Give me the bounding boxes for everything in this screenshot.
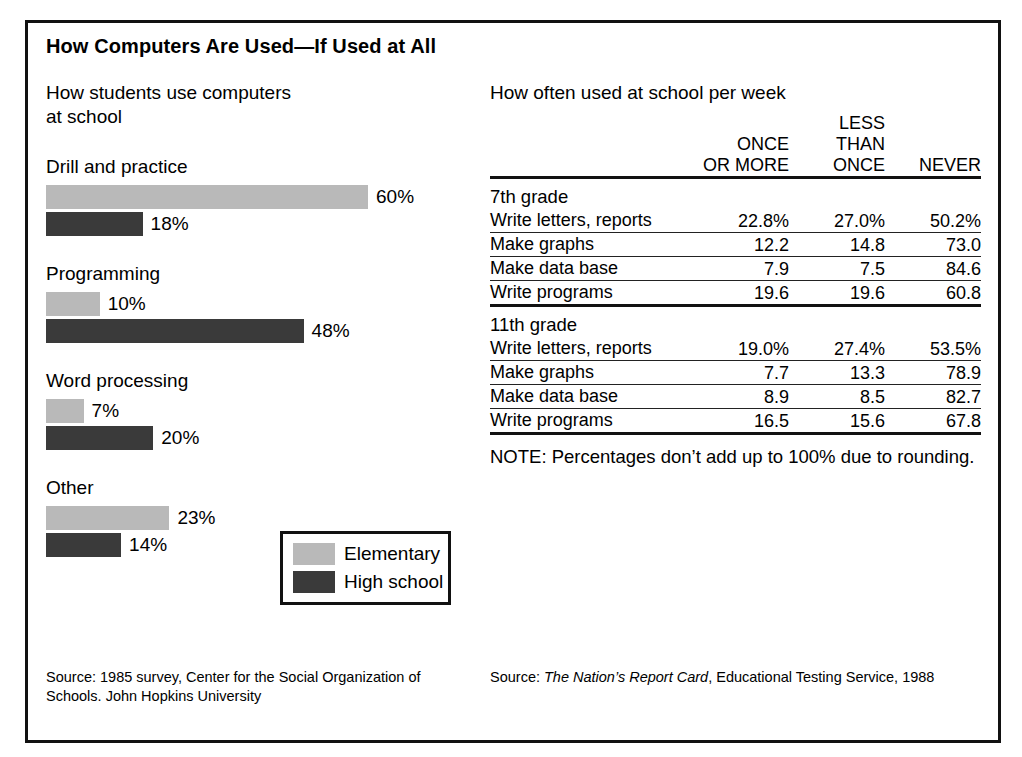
column-header: NEVER (885, 113, 981, 178)
bar-value-label: 48% (312, 320, 350, 342)
source-right-suffix: , Educational Testing Service, 1988 (708, 669, 934, 685)
table-cell-value: 7.5 (789, 257, 885, 281)
bar-elementary (46, 506, 169, 530)
table-cell-value: 8.5 (789, 385, 885, 409)
table-cell-value: 82.7 (885, 385, 981, 409)
bar-chart-heading: How students use computers at school (46, 81, 478, 129)
table-row: Write letters, reports22.8%27.0%50.2% (490, 208, 981, 233)
table-cell-value: 19.6 (693, 281, 789, 306)
legend-swatch-elementary-icon (293, 543, 335, 565)
legend-swatch-high-school-icon (293, 571, 335, 593)
bar-row: 20% (46, 426, 478, 450)
bar-group: Programming10%48% (46, 262, 478, 343)
bar-high-school (46, 212, 143, 236)
bar-row: 23% (46, 506, 478, 530)
table-cell-value: 12.2 (693, 233, 789, 257)
bar-high-school (46, 426, 153, 450)
bar-elementary (46, 292, 100, 316)
table-row: Make data base7.97.584.6 (490, 257, 981, 281)
bar-value-label: 60% (376, 186, 414, 208)
bar-group-label: Drill and practice (46, 155, 478, 179)
table-group-label: 11th grade (490, 306, 981, 337)
table-row-label: Write letters, reports (490, 208, 693, 233)
table-group-row: 11th grade (490, 306, 981, 337)
column-header-blank (490, 113, 693, 178)
table-cell-value: 27.0% (789, 208, 885, 233)
table-cell-value: 78.9 (885, 361, 981, 385)
bar-row: 48% (46, 319, 478, 343)
table-cell-value: 73.0 (885, 233, 981, 257)
frequency-table-heading: How often used at school per week (490, 81, 985, 105)
table-note: NOTE: Percentages don’t add up to 100% d… (490, 445, 985, 469)
table-row: Make graphs12.214.873.0 (490, 233, 981, 257)
bar-row: 7% (46, 399, 478, 423)
table-cell-value: 84.6 (885, 257, 981, 281)
table-cell-value: 7.7 (693, 361, 789, 385)
table-cell-value: 13.3 (789, 361, 885, 385)
bar-value-label: 7% (92, 400, 119, 422)
table-cell-value: 8.9 (693, 385, 789, 409)
table-row-label: Write programs (490, 281, 693, 306)
bar-groups: Drill and practice60%18%Programming10%48… (46, 155, 478, 557)
table-row: Write programs19.619.660.8 (490, 281, 981, 306)
table-row-label: Make graphs (490, 361, 693, 385)
legend-label-elementary: Elementary (344, 543, 440, 565)
bar-chart-panel: How students use computers at school Dri… (46, 81, 478, 557)
bar-row: 18% (46, 212, 478, 236)
bar-elementary (46, 185, 368, 209)
table-body: 7th gradeWrite letters, reports22.8%27.0… (490, 178, 981, 434)
table-row-label: Make data base (490, 257, 693, 281)
frequency-table-panel: How often used at school per week ONCE O… (490, 81, 985, 469)
legend-label-high-school: High school (344, 571, 443, 593)
bar-row: 10% (46, 292, 478, 316)
legend-item-elementary: Elementary (293, 542, 438, 566)
source-note-right: Source: The Nation’s Report Card, Educat… (490, 668, 970, 687)
table-row: Write programs16.515.667.8 (490, 409, 981, 434)
bar-value-label: 23% (177, 507, 215, 529)
chart-legend: Elementary High school (280, 531, 451, 605)
table-cell-value: 19.0% (693, 336, 789, 361)
table-row-label: Write programs (490, 409, 693, 434)
column-header: ONCE OR MORE (693, 113, 789, 178)
table-header-row: ONCE OR MORELESS THAN ONCENEVER (490, 113, 981, 178)
bar-row: 60% (46, 185, 478, 209)
figure-title: How Computers Are Used—If Used at All (46, 35, 436, 58)
table-cell-value: 53.5% (885, 336, 981, 361)
table-cell-value: 60.8 (885, 281, 981, 306)
source-right-title: The Nation’s Report Card (544, 669, 708, 685)
bar-value-label: 20% (161, 427, 199, 449)
table-cell-value: 15.6 (789, 409, 885, 434)
table-cell-value: 67.8 (885, 409, 981, 434)
bar-value-label: 10% (108, 293, 146, 315)
source-right-prefix: Source: (490, 669, 544, 685)
table-row-label: Write letters, reports (490, 336, 693, 361)
bar-group-label: Other (46, 476, 478, 500)
table-cell-value: 22.8% (693, 208, 789, 233)
bar-group: Word processing7%20% (46, 369, 478, 450)
bar-value-label: 18% (151, 213, 189, 235)
table-cell-value: 14.8 (789, 233, 885, 257)
bar-elementary (46, 399, 84, 423)
table-cell-value: 19.6 (789, 281, 885, 306)
source-note-left: Source: 1985 survey, Center for the Soci… (46, 668, 476, 706)
figure-frame: How Computers Are Used—If Used at All Ho… (25, 20, 1001, 743)
bar-group-label: Word processing (46, 369, 478, 393)
table-group-row: 7th grade (490, 178, 981, 209)
table-cell-value: 50.2% (885, 208, 981, 233)
frequency-table: ONCE OR MORELESS THAN ONCENEVER 7th grad… (490, 113, 981, 435)
table-row-label: Make graphs (490, 233, 693, 257)
table-row: Make graphs7.713.378.9 (490, 361, 981, 385)
bar-high-school (46, 319, 304, 343)
bar-high-school (46, 533, 121, 557)
bar-value-label: 14% (129, 534, 167, 556)
table-group-label: 7th grade (490, 178, 981, 209)
table-cell-value: 7.9 (693, 257, 789, 281)
bar-group-label: Programming (46, 262, 478, 286)
table-row-label: Make data base (490, 385, 693, 409)
table-row: Make data base8.98.582.7 (490, 385, 981, 409)
table-cell-value: 16.5 (693, 409, 789, 434)
table-cell-value: 27.4% (789, 336, 885, 361)
column-header: LESS THAN ONCE (789, 113, 885, 178)
legend-item-high-school: High school (293, 570, 438, 594)
bar-group: Drill and practice60%18% (46, 155, 478, 236)
